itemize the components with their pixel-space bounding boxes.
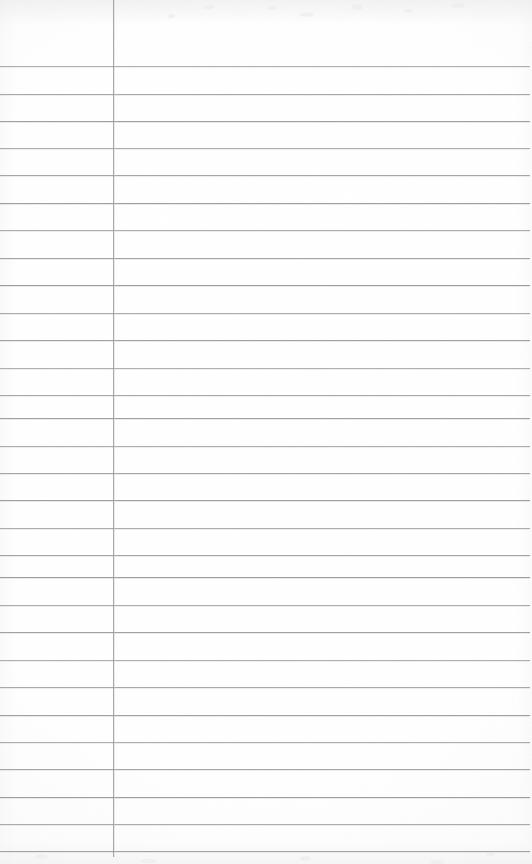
- scanned-page: [0, 0, 532, 864]
- page-text-content: [0, 0, 532, 864]
